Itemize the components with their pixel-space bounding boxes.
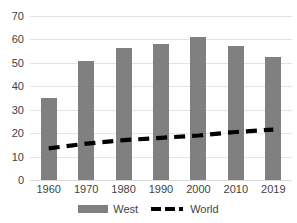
y-axis-tick-label: 50: [0, 58, 24, 68]
world-line-path: [49, 130, 274, 149]
chart-container: West World 01020304050607019601970198019…: [0, 0, 297, 223]
x-axis-tick-label: 1990: [141, 183, 181, 195]
x-axis-tick-label: 1960: [29, 183, 69, 195]
legend-item-world: World: [151, 203, 219, 215]
legend-label-west: West: [113, 203, 138, 215]
gridline: [30, 180, 292, 181]
y-axis-tick-label: 60: [0, 34, 24, 44]
y-axis-tick-label: 70: [0, 11, 24, 21]
chart-legend: West World: [0, 203, 297, 215]
legend-item-west: West: [78, 203, 138, 215]
y-axis-tick-label: 0: [0, 175, 24, 185]
plot-area: [30, 16, 292, 180]
x-axis-tick-label: 1970: [66, 183, 106, 195]
x-axis-tick-label: 2010: [216, 183, 256, 195]
y-axis-tick-label: 20: [0, 128, 24, 138]
bar-swatch-icon: [78, 205, 108, 213]
dashed-line-swatch-icon: [151, 204, 185, 214]
x-axis-tick-label: 2000: [178, 183, 218, 195]
x-axis-tick-label: 1980: [104, 183, 144, 195]
legend-label-world: World: [190, 203, 219, 215]
y-axis-tick-label: 30: [0, 105, 24, 115]
y-axis-tick-label: 10: [0, 152, 24, 162]
x-axis-tick-label: 2019: [253, 183, 293, 195]
world-line-series: [30, 16, 292, 180]
y-axis-tick-label: 40: [0, 81, 24, 91]
